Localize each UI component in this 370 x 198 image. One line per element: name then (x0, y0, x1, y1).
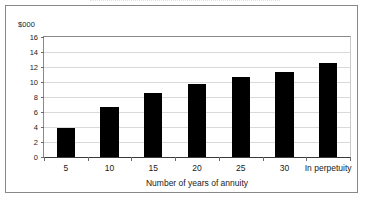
y-gridline (44, 67, 350, 68)
x-tick-mark (350, 157, 351, 161)
x-tick-label: 30 (280, 163, 289, 173)
y-tick-label: 6 (34, 108, 38, 117)
x-tick-label: 25 (236, 163, 245, 173)
x-tick-mark (306, 157, 307, 161)
x-tick-mark (88, 157, 89, 161)
bar (319, 63, 337, 157)
x-tick-label: In perpetuity (305, 163, 352, 173)
y-tick-label: 4 (34, 123, 38, 132)
y-tick-label: 2 (34, 138, 38, 147)
x-tick-label: 10 (105, 163, 114, 173)
y-tick-label: 0 (34, 153, 38, 162)
chart-frame: $000 024681012141651015202530In perpetui… (5, 5, 358, 193)
y-tick-mark (41, 142, 44, 143)
plot-area: 024681012141651015202530In perpetuity (43, 36, 351, 158)
bar (100, 107, 118, 157)
x-tick-mark (219, 157, 220, 161)
y-tick-label: 10 (30, 78, 38, 87)
x-tick-mark (175, 157, 176, 161)
y-tick-label: 14 (30, 48, 38, 57)
bar (275, 72, 293, 157)
y-tick-mark (41, 112, 44, 113)
x-tick-label: 5 (63, 163, 68, 173)
bar (57, 128, 75, 157)
clipped-title-artifact (90, 0, 280, 3)
y-axis-units-label: $000 (18, 20, 35, 29)
x-axis-title: Number of years of annuity (43, 178, 351, 188)
y-tick-label: 8 (34, 93, 38, 102)
x-tick-mark (44, 157, 45, 161)
y-tick-mark (41, 37, 44, 38)
bar (144, 93, 162, 157)
y-tick-mark (41, 97, 44, 98)
y-tick-mark (41, 52, 44, 53)
y-tick-mark (41, 82, 44, 83)
y-gridline (44, 52, 350, 53)
y-tick-label: 12 (30, 63, 38, 72)
y-tick-mark (41, 127, 44, 128)
y-tick-label: 16 (30, 33, 38, 42)
x-tick-mark (131, 157, 132, 161)
y-tick-mark (41, 67, 44, 68)
bar (188, 84, 206, 158)
x-tick-label: 15 (149, 163, 158, 173)
chart-figure: $000 024681012141651015202530In perpetui… (0, 0, 370, 198)
bar (232, 77, 250, 157)
x-tick-label: 20 (192, 163, 201, 173)
x-tick-mark (263, 157, 264, 161)
